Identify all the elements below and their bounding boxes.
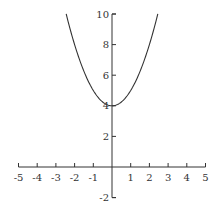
y-tick-label: 6: [103, 70, 109, 81]
x-tick-label: -4: [32, 172, 42, 183]
x-tick-label: -2: [70, 172, 80, 183]
x-tick-label: 3: [165, 172, 171, 183]
x-tick-label: 4: [184, 172, 190, 183]
x-tick-label: 5: [202, 172, 208, 183]
x-tick-label: 1: [128, 172, 134, 183]
y-tick-label: 4: [103, 100, 109, 111]
x-tick-label: 2: [146, 172, 152, 183]
y-tick-label: -2: [99, 192, 109, 203]
x-tick-label: -1: [88, 172, 98, 183]
y-tick-label: 10: [96, 9, 109, 20]
x-axis-ticks: -5-4-3-2-112345: [14, 163, 209, 183]
y-tick-label: 2: [103, 131, 109, 142]
chart-plot: -5-4-3-2-112345 -2246810: [0, 0, 219, 215]
y-tick-label: 8: [103, 39, 109, 50]
x-tick-label: -3: [51, 172, 61, 183]
x-tick-label: -5: [14, 172, 24, 183]
